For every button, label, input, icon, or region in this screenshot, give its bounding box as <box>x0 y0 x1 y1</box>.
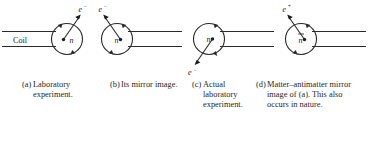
particle-arrowhead <box>75 15 81 20</box>
caption-c: (c) Actual laboratory experiment. <box>192 80 254 111</box>
particle-label: e <box>79 5 83 14</box>
particle-arrowhead <box>195 60 201 65</box>
caption-row: (a) Laboratory experiment. (b) Its mirro… <box>0 80 368 145</box>
caption-b-text: Its mirror image. <box>121 80 182 90</box>
particle-charge-label: − <box>84 3 88 9</box>
particle-label: e <box>99 5 103 14</box>
physics-figure: Coil n e − n <box>0 0 368 145</box>
caption-a: (a) Laboratory experiment. <box>22 80 106 100</box>
panel-c-drawing: n e − <box>184 0 276 80</box>
panel-a: Coil n e − <box>0 0 92 80</box>
nucleus-label: n <box>70 36 74 45</box>
caption-d-text: Matter–antimatter mirror image of (a). T… <box>267 80 362 111</box>
nucleus-label: n <box>207 35 211 44</box>
caption-c-text: Actual laboratory experiment. <box>203 80 254 111</box>
panel-row: Coil n e − n <box>0 0 368 80</box>
particle-label: e <box>283 5 287 14</box>
panel-b-drawing: n e − <box>92 0 184 80</box>
caption-b-tag: (b) <box>110 80 120 90</box>
nucleus-circle <box>52 24 83 55</box>
particle-charge-label: − <box>193 67 197 73</box>
particle-charge-label: − <box>104 3 108 9</box>
caption-a-tag: (a) <box>22 80 31 90</box>
caption-d: (d) Matter–antimatter mirror image of (a… <box>256 80 362 111</box>
particle-arrowhead <box>287 15 293 20</box>
nucleus-label: n <box>115 36 119 45</box>
particle-charge-label: + <box>288 3 292 9</box>
nucleus-label: n <box>299 36 303 45</box>
particle-arrowhead <box>103 15 109 20</box>
coil-label: Coil <box>13 36 28 45</box>
panel-b: n e − <box>92 0 184 80</box>
caption-b: (b) Its mirror image. <box>110 80 182 90</box>
caption-a-text: Laboratory experiment. <box>33 80 106 100</box>
panel-a-drawing: Coil n e − <box>0 0 92 80</box>
spin-arrowhead-bottom <box>213 51 218 56</box>
caption-c-tag: (c) <box>192 80 201 90</box>
caption-d-tag: (d) <box>256 80 266 90</box>
panel-d-drawing: n e + <box>276 0 368 80</box>
panel-c: n e − <box>184 0 276 80</box>
panel-d: n e + <box>276 0 368 80</box>
particle-label: e <box>188 68 192 77</box>
